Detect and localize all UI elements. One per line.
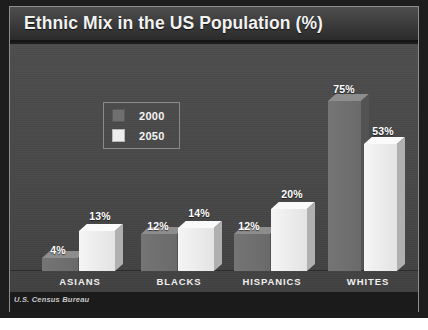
- bar-value-blacks-2050: 14%: [176, 207, 222, 219]
- bar-value-hispanics-2050: 20%: [269, 188, 315, 200]
- category-label-whites: WHITES: [320, 271, 416, 287]
- bar-face-side: [115, 224, 123, 271]
- bar-value-blacks-2000: 12%: [135, 220, 181, 232]
- bar-groups: 4% 13% ASIANS: [10, 44, 418, 271]
- bar-group-whites: 75% 53% WHITES: [320, 44, 416, 271]
- bar-asians-2050: 13%: [79, 231, 115, 271]
- footer-strip: U.S. Census Bureau: [10, 292, 418, 312]
- bar-group-asians: 4% 13% ASIANS: [32, 44, 128, 271]
- bar-face-front: [178, 228, 214, 271]
- bar-whites-2000: 75%: [328, 101, 361, 271]
- bar-face-front: [271, 209, 307, 271]
- bar-value-hispanics-2000: 12%: [226, 220, 272, 232]
- category-label-blacks: BLACKS: [131, 271, 227, 287]
- bar-whites-2050: 53%: [364, 144, 397, 271]
- bar-value-whites-2050: 53%: [360, 125, 406, 137]
- bar-hispanics-2000: 12%: [234, 234, 270, 271]
- bar-face-side: [307, 202, 315, 271]
- category-label-asians: ASIANS: [32, 271, 128, 287]
- category-label-hispanics: HISPANICS: [224, 271, 320, 287]
- bar-face-front: [42, 258, 78, 271]
- chart-plot-area: 2000 2050 4%: [10, 44, 418, 292]
- bar-blacks-2000: 12%: [141, 234, 177, 271]
- bar-value-asians-2050: 13%: [77, 210, 123, 222]
- bar-hispanics-2050: 20%: [271, 209, 307, 271]
- source-attribution: U.S. Census Bureau: [14, 295, 89, 304]
- bar-face-front: [328, 101, 361, 271]
- bar-face-front: [79, 231, 115, 271]
- bar-value-whites-2000: 75%: [321, 83, 367, 95]
- bottom-white-margin: [0, 318, 428, 330]
- slide-root: Ethnic Mix in the US Population (%) 2000…: [0, 0, 428, 330]
- page-title: Ethnic Mix in the US Population (%): [10, 13, 323, 34]
- bar-face-front: [234, 234, 270, 271]
- bar-face-front: [364, 144, 397, 271]
- bar-group-hispanics: 12% 20% HISPANICS: [224, 44, 320, 271]
- bar-asians-2000: 4%: [42, 258, 78, 271]
- bar-blacks-2050: 14%: [178, 228, 214, 271]
- title-bar: Ethnic Mix in the US Population (%): [10, 7, 418, 42]
- bar-group-blacks: 12% 14% BLACKS: [131, 44, 227, 271]
- bar-value-asians-2000: 4%: [35, 244, 81, 256]
- bar-face-side: [397, 137, 405, 271]
- bar-face-side: [214, 221, 222, 271]
- bar-face-front: [141, 234, 177, 271]
